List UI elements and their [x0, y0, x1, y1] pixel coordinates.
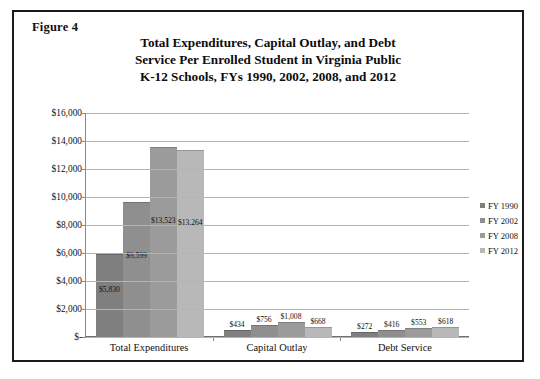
plot-area: $5,830$9,599$13,523$13,264$434$756$1,008…: [85, 113, 469, 337]
y-axis-labels: $16,000$14,000$12,000$10,000$8,000$6,000…: [24, 113, 82, 337]
bar-value-label: $13,523: [151, 216, 176, 225]
x-axis-category-label: Capital Outlay: [213, 342, 341, 353]
bar-value-label: $553: [411, 318, 426, 327]
x-axis-category-label: Total Expenditures: [85, 342, 213, 353]
y-axis-tick-label: $2,000: [56, 304, 82, 314]
y-axis-tick-label: $12,000: [52, 164, 82, 174]
legend-swatch-icon: [480, 233, 485, 238]
gridline: [86, 141, 469, 142]
gridline: [86, 197, 469, 198]
legend-swatch-icon: [480, 203, 485, 208]
gridline: [86, 337, 469, 338]
gridline: [86, 225, 469, 226]
y-axis-tick: [82, 309, 86, 310]
y-axis-tick-label: $10,000: [52, 192, 82, 202]
bar[interactable]: $416: [378, 330, 405, 337]
bar-value-label: $618: [438, 317, 453, 326]
chart-plot: $16,000$14,000$12,000$10,000$8,000$6,000…: [14, 12, 522, 360]
gridline: [86, 309, 469, 310]
y-axis-tick: [82, 337, 86, 338]
legend-item-label: FY 2008: [488, 231, 518, 241]
bar-value-label: $756: [256, 315, 271, 324]
y-axis-tick-label: $14,000: [52, 136, 82, 146]
bar-value-label: $668: [310, 317, 325, 326]
bar[interactable]: $668: [305, 327, 332, 337]
gridline: [86, 113, 469, 114]
legend-item[interactable]: FY 2008: [480, 228, 540, 243]
bar[interactable]: $1,008: [278, 322, 305, 337]
y-axis-tick: [82, 141, 86, 142]
x-axis-category-label: Debt Service: [341, 342, 469, 353]
y-axis-tick: [82, 281, 86, 282]
y-axis-tick-label: $8,000: [56, 220, 82, 230]
legend-item[interactable]: FY 2002: [480, 213, 540, 228]
y-axis-tick: [82, 169, 86, 170]
y-axis-tick: [82, 113, 86, 114]
y-axis-tick: [82, 197, 86, 198]
bar[interactable]: $618: [432, 327, 459, 337]
bar[interactable]: $553: [405, 328, 432, 337]
legend-item-label: FY 2012: [488, 246, 518, 256]
bar[interactable]: $756: [251, 325, 278, 337]
bar[interactable]: $434: [224, 330, 251, 337]
legend-item-label: FY 2002: [488, 216, 518, 226]
gridline: [86, 253, 469, 254]
bar[interactable]: $5,830: [96, 254, 123, 337]
chart-legend: FY 1990FY 2002FY 2008FY 2012: [480, 198, 540, 258]
y-axis-tick: [82, 225, 86, 226]
bar-value-label: $416: [384, 320, 399, 329]
bar[interactable]: $9,599: [123, 202, 150, 337]
gridline: [86, 281, 469, 282]
y-axis-tick-label: $-: [74, 332, 82, 342]
gridline: [86, 169, 469, 170]
bar-value-label: $1,008: [281, 312, 302, 321]
legend-item[interactable]: FY 1990: [480, 198, 540, 213]
legend-item-label: FY 1990: [488, 201, 518, 211]
figure-frame: Figure 4 Total Expenditures, Capital Out…: [12, 10, 524, 362]
y-axis-tick-label: $6,000: [56, 248, 82, 258]
y-axis-tick-label: $16,000: [52, 108, 82, 118]
legend-swatch-icon: [480, 218, 485, 223]
bar-value-label: $5,830: [99, 285, 120, 294]
y-axis-tick-label: $4,000: [56, 276, 82, 286]
bar-value-label: $434: [229, 320, 244, 329]
y-axis-tick: [82, 253, 86, 254]
legend-swatch-icon: [480, 248, 485, 253]
legend-item[interactable]: FY 2012: [480, 243, 540, 258]
bar-value-label: $272: [357, 322, 372, 331]
x-axis-labels: Total ExpendituresCapital OutlayDebt Ser…: [85, 342, 469, 353]
